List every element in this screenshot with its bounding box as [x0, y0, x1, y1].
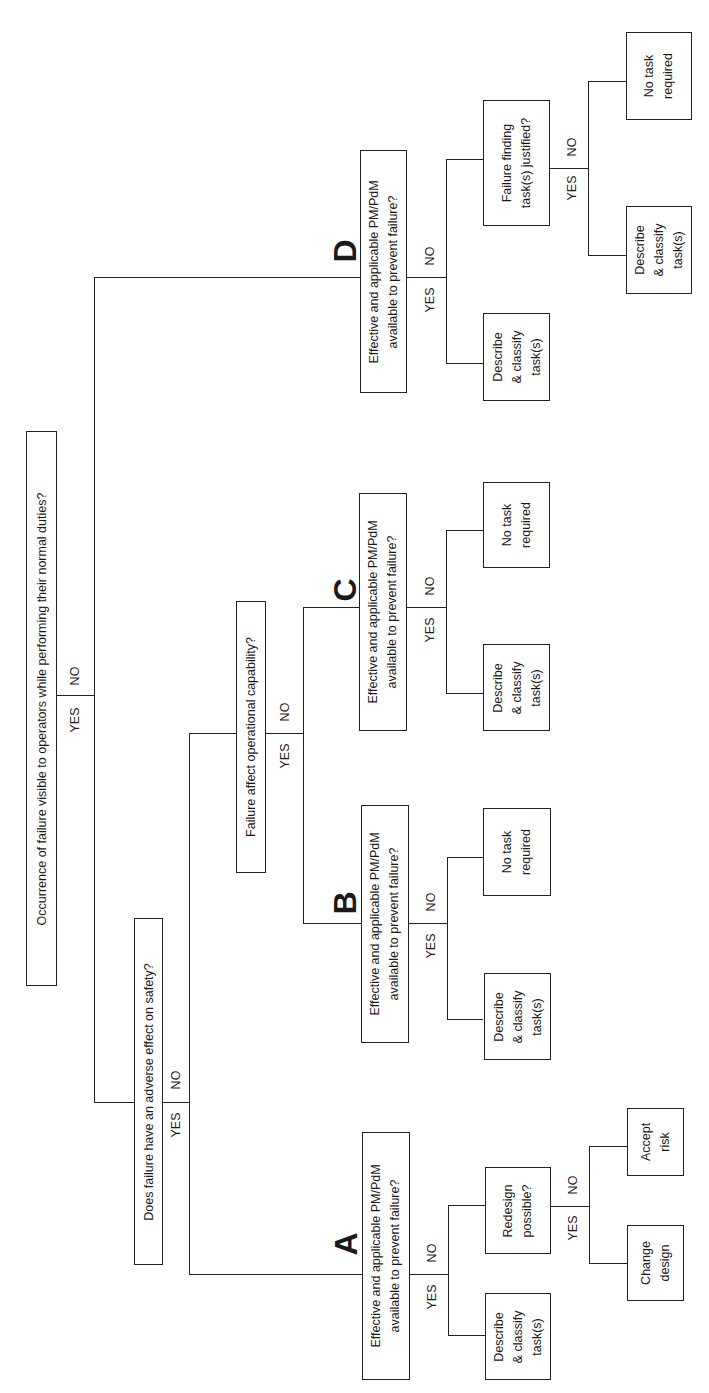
branch-b-question-box: Effective and applicable PM/PdM availabl…	[361, 805, 409, 1043]
connector	[94, 1102, 134, 1103]
branch-b-yes-label: YES	[424, 933, 438, 958]
connector	[446, 530, 447, 693]
connector	[551, 1206, 589, 1207]
root-yes-label: YES	[68, 707, 82, 732]
operational-yes-label: YES	[278, 743, 292, 768]
branch-c-no-outcome-box: No task required	[483, 482, 550, 568]
failure-finding-no-label: NO	[565, 138, 579, 157]
redesign-text: Redesign possible?	[499, 1184, 537, 1237]
connector	[162, 1102, 189, 1103]
outcome-text: Describe & classify task(s)	[490, 1310, 547, 1363]
connector	[588, 255, 626, 256]
outcome-text: Describe & classify task(s)	[631, 224, 688, 277]
connector	[265, 733, 303, 734]
connector	[446, 530, 483, 531]
connector	[447, 1019, 483, 1020]
outcome-text: Change design	[637, 1241, 675, 1285]
safety-no-label: NO	[169, 1071, 183, 1090]
outcome-text: Describe & classify task(s)	[488, 331, 545, 384]
redesign-no-outcome-box: Accept risk	[627, 1108, 684, 1176]
redesign-no-label: NO	[566, 1176, 580, 1195]
branch-b-no-outcome-box: No task required	[483, 808, 551, 896]
safety-question-box: Does failure have an adverse effect on s…	[134, 918, 163, 1265]
branch-a-question-box: Effective and applicable PM/PdM availabl…	[362, 1132, 410, 1380]
connector	[189, 733, 236, 734]
outcome-text: No task required	[640, 53, 678, 99]
connector	[406, 277, 446, 278]
branch-c-yes-label: YES	[423, 617, 437, 642]
connector	[550, 168, 588, 169]
outcome-text: Accept risk	[637, 1123, 675, 1161]
connector	[94, 277, 95, 1103]
outcome-text: No task required	[498, 829, 536, 875]
branch-c-letter: C	[327, 578, 364, 601]
root-question-box: Occurrence of failure visible to operato…	[26, 431, 57, 986]
failure-finding-text: Failure finding task(s) justified?	[498, 118, 536, 208]
connector	[189, 733, 190, 1274]
root-question-text: Occurrence of failure visible to operato…	[32, 492, 51, 925]
operational-question-box: Failure affect operational capability?	[236, 601, 266, 873]
branch-a-no-label: NO	[425, 1244, 439, 1263]
branch-c-yes-outcome-box: Describe & classify task(s)	[483, 644, 550, 731]
safety-yes-label: YES	[169, 1112, 183, 1137]
branch-b-yes-outcome-box: Describe & classify task(s)	[484, 973, 551, 1060]
connector	[446, 159, 447, 363]
branch-c-question-text: Effective and applicable PM/PdM availabl…	[364, 520, 402, 703]
connector	[589, 1263, 627, 1264]
failure-finding-no-outcome-box: No task required	[626, 32, 692, 120]
connector	[448, 1205, 449, 1335]
connector	[589, 1146, 627, 1147]
branch-a-yes-outcome-box: Describe & classify task(s)	[485, 1293, 551, 1380]
operational-no-label: NO	[278, 703, 292, 722]
connector	[588, 81, 589, 255]
connector	[410, 1274, 448, 1275]
failure-finding-yes-outcome-box: Describe & classify task(s)	[626, 206, 692, 294]
branch-d-no-label: NO	[423, 247, 437, 266]
connector	[407, 607, 446, 608]
connector	[446, 159, 483, 160]
connector	[303, 923, 361, 924]
operational-question-text: Failure affect operational capability?	[242, 637, 261, 837]
branch-a-question-text: Effective and applicable PM/PdM availabl…	[367, 1164, 405, 1347]
redesign-yes-label: YES	[566, 1215, 580, 1240]
connector	[448, 1205, 485, 1206]
outcome-text: Describe & classify task(s)	[489, 990, 546, 1043]
connector	[588, 81, 626, 82]
root-no-label: NO	[68, 667, 82, 686]
branch-d-question-text: Effective and applicable PM/PdM availabl…	[365, 180, 403, 363]
connector	[303, 607, 360, 608]
branch-a-redesign-box: Redesign possible?	[485, 1167, 551, 1254]
branch-d-yes-outcome-box: Describe & classify task(s)	[483, 313, 550, 401]
outcome-text: No task required	[498, 502, 536, 548]
connector	[447, 857, 448, 1019]
branch-c-no-label: NO	[423, 577, 437, 596]
connector	[446, 363, 483, 364]
outcome-text: Describe & classify task(s)	[488, 661, 545, 714]
branch-d-letter: D	[327, 239, 364, 262]
redesign-yes-outcome-box: Change design	[627, 1225, 684, 1301]
branch-a-letter: A	[328, 1232, 365, 1255]
branch-d-question-box: Effective and applicable PM/PdM availabl…	[360, 150, 407, 393]
connector	[408, 923, 447, 924]
branch-d-failure-finding-box: Failure finding task(s) justified?	[483, 100, 550, 226]
branch-c-question-box: Effective and applicable PM/PdM availabl…	[359, 493, 407, 731]
connector	[94, 277, 360, 278]
connector	[189, 1274, 362, 1275]
connector	[589, 1146, 590, 1263]
connector	[448, 1335, 485, 1336]
branch-b-question-text: Effective and applicable PM/PdM availabl…	[366, 832, 404, 1015]
safety-question-text: Does failure have an adverse effect on s…	[139, 963, 158, 1221]
branch-a-yes-label: YES	[425, 1284, 439, 1309]
branch-d-yes-label: YES	[423, 287, 437, 312]
branch-b-letter: B	[327, 891, 364, 914]
connector	[56, 695, 94, 696]
connector	[303, 607, 304, 923]
branch-b-no-label: NO	[424, 893, 438, 912]
connector	[446, 693, 483, 694]
failure-finding-yes-label: YES	[565, 175, 579, 200]
connector	[447, 857, 483, 858]
